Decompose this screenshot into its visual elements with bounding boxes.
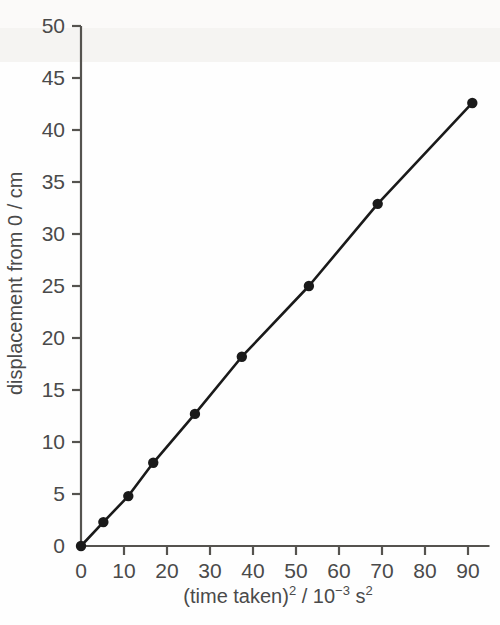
data-points-group: [76, 98, 478, 551]
x-tick-label: 40: [241, 559, 264, 582]
data-point: [98, 517, 108, 527]
data-point: [237, 352, 247, 362]
data-line-group: [81, 103, 472, 546]
data-point: [467, 98, 477, 108]
y-tick-label: 50: [42, 14, 65, 37]
tick-labels-group: 051015202530354045500102030405060708090: [42, 14, 480, 582]
y-axis-title: displacement from 0 / cm: [4, 172, 26, 395]
data-point: [148, 458, 158, 468]
axes-group: [81, 26, 490, 546]
data-line: [81, 103, 472, 546]
x-tick-label: 20: [155, 559, 178, 582]
plot-canvas: 051015202530354045500102030405060708090 …: [0, 0, 500, 625]
data-point: [190, 409, 200, 419]
x-tick-label: 70: [370, 559, 393, 582]
y-tick-label: 35: [42, 170, 65, 193]
x-tick-label: 30: [198, 559, 221, 582]
data-point: [304, 281, 314, 291]
chart-figure: 051015202530354045500102030405060708090 …: [0, 0, 500, 625]
data-point: [373, 199, 383, 209]
x-axis-title: (time taken)2 / 10−3 s2: [183, 583, 372, 607]
x-tick-label: 10: [112, 559, 135, 582]
x-tick-label: 90: [456, 559, 479, 582]
y-tick-label: 0: [53, 534, 65, 557]
y-tick-label: 45: [42, 66, 65, 89]
data-point: [123, 491, 133, 501]
tick-marks-group: [72, 26, 468, 555]
y-tick-label: 40: [42, 118, 65, 141]
y-tick-label: 30: [42, 222, 65, 245]
y-tick-label: 25: [42, 274, 65, 297]
y-tick-label: 10: [42, 430, 65, 453]
x-tick-label: 0: [75, 559, 87, 582]
y-tick-label: 15: [42, 378, 65, 401]
y-tick-label: 20: [42, 326, 65, 349]
x-tick-label: 50: [284, 559, 307, 582]
y-tick-label: 5: [53, 482, 65, 505]
x-tick-label: 60: [327, 559, 350, 582]
x-tick-label: 80: [413, 559, 436, 582]
data-point: [76, 541, 86, 551]
